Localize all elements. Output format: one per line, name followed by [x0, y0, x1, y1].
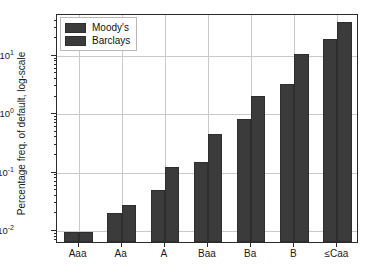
x-tick-mark-Baa	[207, 243, 208, 247]
y-tick-label-1: 101	[0, 49, 14, 61]
x-tick-mark-Ba	[250, 243, 251, 247]
x-tick-label-Aa: Aa	[115, 248, 127, 259]
legend-item-barclays: Barclays	[65, 34, 130, 47]
x-tick-mark-Aaa	[78, 243, 79, 247]
x-tick-label-Ba: Ba	[244, 248, 256, 259]
bar-moodys-Aa	[107, 213, 121, 242]
bar-moodys-Caa	[323, 39, 337, 242]
bar-barclays-Ba	[251, 96, 265, 242]
chart-figure: Percentage freq. of default, log-scale 1…	[0, 0, 377, 278]
x-tick-label-B: B	[290, 248, 297, 259]
bar-moodys-Baa	[194, 162, 208, 242]
x-tick-mark-Aa	[121, 243, 122, 247]
bar-barclays-Aaa	[79, 232, 93, 242]
legend: Moody's Barclays	[60, 17, 137, 51]
x-tick-mark-B	[293, 243, 294, 247]
bar-moodys-Ba	[237, 119, 251, 242]
gridline-y-0	[57, 114, 357, 115]
x-tick-mark-A	[164, 243, 165, 247]
legend-label-moodys: Moody's	[92, 21, 129, 34]
x-tick-mark-Caa	[336, 243, 337, 247]
bar-barclays-Caa	[337, 22, 351, 242]
x-tick-label-Caa: ≤Caa	[325, 248, 349, 259]
y-tick-label-0: 100	[0, 107, 14, 119]
bar-moodys-B	[280, 84, 294, 242]
bar-barclays-Aa	[122, 205, 136, 242]
x-tick-label-A: A	[161, 248, 168, 259]
x-tick-label-Baa: Baa	[198, 248, 216, 259]
legend-swatch-moodys	[65, 23, 86, 33]
gridline-y-1	[57, 56, 357, 57]
legend-swatch-barclays	[65, 36, 86, 46]
x-tick-label-Aaa: Aaa	[69, 248, 87, 259]
bar-barclays-Baa	[208, 134, 222, 242]
y-tick-label--2: 10-2	[0, 224, 14, 236]
legend-label-barclays: Barclays	[92, 34, 130, 47]
bar-moodys-Aaa	[64, 232, 78, 242]
bar-barclays-B	[294, 54, 308, 242]
bar-barclays-A	[165, 167, 179, 242]
y-axis-label: Percentage freq. of default, log-scale	[16, 19, 27, 249]
y-tick-label--1: 10-1	[0, 166, 14, 178]
legend-item-moodys: Moody's	[65, 21, 130, 34]
bar-moodys-A	[151, 190, 165, 242]
